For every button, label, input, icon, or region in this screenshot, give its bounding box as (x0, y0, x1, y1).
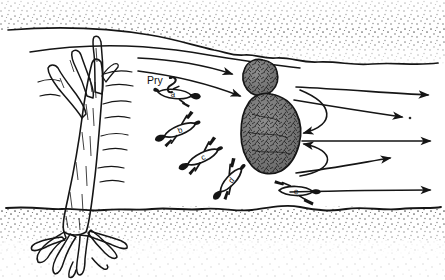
boulder-upper (243, 59, 278, 95)
figure-canvas: Pry a b (0, 0, 445, 280)
water-speck (409, 117, 412, 120)
stream-habitat-figure: Pry a b (0, 0, 445, 280)
boulder-lower (241, 93, 301, 173)
prey-label: Pry (147, 74, 164, 86)
